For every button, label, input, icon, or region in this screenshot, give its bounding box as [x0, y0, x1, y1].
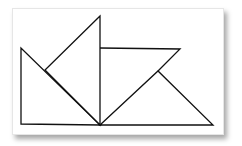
geometric-figure [0, 0, 242, 146]
parallelogram-upper-edge [100, 48, 180, 71]
right-triangle [100, 71, 213, 125]
tall-triangle [45, 16, 100, 125]
